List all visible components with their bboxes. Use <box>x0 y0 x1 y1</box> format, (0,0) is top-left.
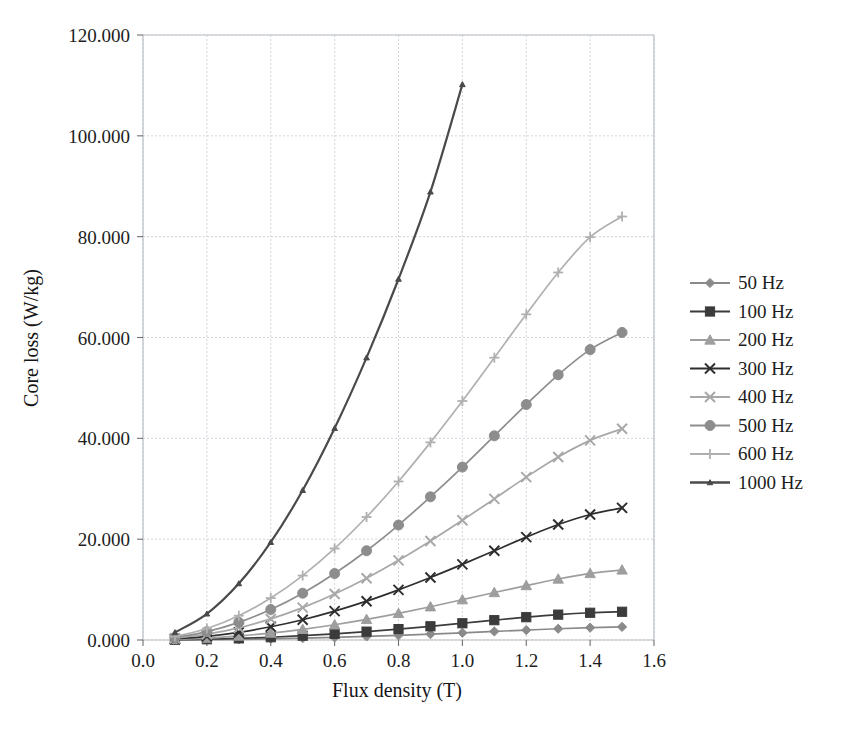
legend-label: 600 Hz <box>738 443 793 464</box>
data-point-marker <box>617 607 626 616</box>
x-tick-labels: 0.00.20.40.60.81.01.21.41.6 <box>131 650 666 671</box>
data-point-marker <box>490 616 499 625</box>
data-point-marker <box>554 610 563 619</box>
y-tick-label: 20.000 <box>78 529 130 550</box>
data-point-marker <box>489 431 499 441</box>
data-point-marker <box>553 370 563 380</box>
data-point-marker <box>362 627 371 636</box>
x-axis-title: Flux density (T) <box>332 679 462 702</box>
legend-label: 300 Hz <box>738 358 793 379</box>
data-point-marker <box>617 327 627 337</box>
data-point-marker <box>394 520 404 530</box>
data-point-marker <box>298 588 308 598</box>
y-tick-label: 60.000 <box>78 328 130 349</box>
data-point-marker <box>330 569 340 579</box>
legend-marker-icon <box>705 307 714 316</box>
x-tick-label: 1.2 <box>514 650 538 671</box>
data-point-marker <box>425 492 435 502</box>
data-point-marker <box>362 546 372 556</box>
y-tick-label: 120.000 <box>68 25 130 46</box>
legend-label: 1000 Hz <box>738 472 803 493</box>
chart-figure: 0.00.20.40.60.81.01.21.41.6 0.00020.0004… <box>0 0 866 731</box>
legend-label: 50 Hz <box>738 272 784 293</box>
y-tick-label: 80.000 <box>78 227 130 248</box>
data-point-marker <box>330 629 339 638</box>
x-tick-label: 1.0 <box>451 650 475 671</box>
x-tick-label: 0.6 <box>323 650 347 671</box>
legend-marker-icon <box>705 421 715 431</box>
x-tick-label: 1.6 <box>642 650 666 671</box>
x-tick-label: 0.4 <box>259 650 283 671</box>
y-axis-title: Core loss (W/kg) <box>20 269 43 407</box>
data-point-marker <box>585 345 595 355</box>
x-tick-label: 0.2 <box>195 650 219 671</box>
y-tick-label: 100.000 <box>68 126 130 147</box>
data-point-marker <box>266 604 276 614</box>
core-loss-line-chart: 0.00.20.40.60.81.01.21.41.6 0.00020.0004… <box>0 0 866 731</box>
legend-label: 100 Hz <box>738 301 793 322</box>
legend-label: 500 Hz <box>738 415 793 436</box>
data-point-marker <box>394 625 403 634</box>
legend-label: 400 Hz <box>738 386 793 407</box>
y-tick-label: 0.000 <box>87 630 130 651</box>
data-point-marker <box>457 462 467 472</box>
data-point-marker <box>521 400 531 410</box>
legend-label: 200 Hz <box>738 329 793 350</box>
data-point-marker <box>426 622 435 631</box>
x-tick-label: 0.8 <box>387 650 411 671</box>
x-tick-label: 1.4 <box>578 650 602 671</box>
data-point-marker <box>586 608 595 617</box>
data-point-marker <box>458 619 467 628</box>
data-point-marker <box>522 613 531 622</box>
y-tick-label: 40.000 <box>78 428 130 449</box>
x-tick-label: 0.0 <box>131 650 155 671</box>
